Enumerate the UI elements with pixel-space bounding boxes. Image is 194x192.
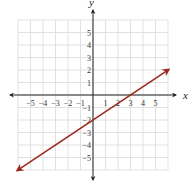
axes [10,10,176,180]
svg-text:−3: −3 [51,99,60,108]
svg-text:3: 3 [129,99,133,108]
svg-text:4: 4 [141,99,145,108]
svg-text:1: 1 [104,99,108,108]
svg-text:2: 2 [87,66,91,75]
svg-text:−4: −4 [82,141,91,150]
svg-text:1: 1 [87,79,91,88]
svg-text:−5: −5 [26,99,35,108]
y-axis-label: y [88,0,94,8]
x-axis-label: x [182,89,188,101]
svg-text:3: 3 [87,54,91,63]
svg-text:−1: −1 [82,104,91,113]
svg-text:−5: −5 [82,154,91,163]
svg-text:−3: −3 [82,129,91,138]
svg-text:5: 5 [154,99,158,108]
coordinate-plane: −5−4−3−2−11234554321−1−2−3−4−5 x y [0,0,194,192]
svg-text:5: 5 [87,29,91,38]
svg-text:4: 4 [87,41,91,50]
svg-text:−4: −4 [39,99,48,108]
svg-text:−2: −2 [64,99,73,108]
